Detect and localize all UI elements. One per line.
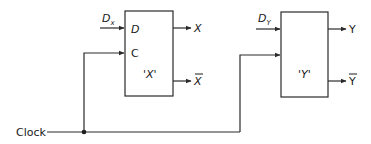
clock-label: Clock (16, 126, 47, 139)
flipflop-y-box (281, 12, 328, 97)
flipflop-y-name: 'Y' (298, 68, 311, 81)
flipflop-x-d-pin-label: D (131, 23, 139, 36)
clock-to-y-wire (240, 55, 280, 132)
dy-input-label: DY (258, 12, 271, 27)
dy-label-main: D (258, 12, 266, 25)
x-bar-output-label: X (193, 75, 202, 88)
dx-label-sub: x (109, 19, 115, 27)
flipflop-x-name: 'X' (143, 68, 157, 81)
circuit-diagram: Clock D C 'X' Dx X X 'Y' DY Y Y (0, 0, 371, 144)
y-output-label: Y (348, 23, 356, 36)
dx-label-main: D (102, 12, 110, 25)
dy-label-sub: Y (266, 19, 271, 27)
y-bar-output-label: Y (348, 75, 356, 88)
dx-input-label: Dx (102, 12, 115, 27)
flipflop-x-c-pin-label: C (131, 47, 139, 60)
clock-to-x-wire (84, 53, 124, 132)
x-output-label: X (193, 22, 202, 35)
